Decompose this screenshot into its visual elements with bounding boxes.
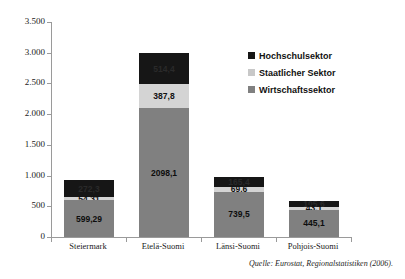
- clipped-header-text: [8, 0, 398, 6]
- legend-item-wirtschaftssektor[interactable]: Wirtschaftssektor: [248, 81, 336, 98]
- bar-steiermark[interactable]: 272,3 54,31 599,29: [64, 180, 114, 237]
- bar-segment-hochschulsektor[interactable]: 514,4: [139, 53, 189, 85]
- y-axis-label-0: 0: [1, 231, 45, 241]
- bar-segment-wirtschaftssektor[interactable]: 445,1: [289, 210, 339, 237]
- bar-segment-wirtschaftssektor[interactable]: 2098,1: [139, 108, 189, 237]
- legend-item-staatlicher-sektor[interactable]: Staatlicher Sektor: [248, 64, 336, 81]
- x-axis-category-steiermark: Steiermark: [45, 241, 131, 251]
- y-axis-label-2000: 2.000: [1, 108, 45, 118]
- bar-segment-wirtschaftssektor[interactable]: 599,29: [64, 200, 114, 237]
- x-axis-category-lansi-suomi: Länsi-Suomi: [195, 241, 281, 251]
- legend-item-hochschulsektor[interactable]: Hochschulsektor: [248, 47, 336, 64]
- source-note: Quelle: Eurostat, Regionalstatistiken (2…: [0, 259, 393, 268]
- bar-value-wirtschaftssektor: 445,1: [289, 219, 339, 228]
- legend-label-staatlicher-sektor: Staatlicher Sektor: [259, 68, 336, 78]
- y-axis-label-2500: 2.500: [1, 77, 45, 87]
- y-axis-label-1500: 1.500: [1, 139, 45, 149]
- bar-value-wirtschaftssektor: 599,29: [64, 214, 114, 223]
- bar-value-wirtschaftssektor: 739,5: [214, 210, 264, 219]
- bar-value-staatlicher-sektor: 387,8: [139, 92, 189, 101]
- bar-pohjois-suomi[interactable]: 105,6 43,1 445,1: [289, 201, 339, 237]
- bar-segment-wirtschaftssektor[interactable]: 739,5: [214, 192, 264, 237]
- y-axis-label-3500: 3.500: [1, 16, 45, 26]
- legend-swatch-icon-hochschulsektor: [248, 52, 255, 59]
- chart-container: 3.500 3.000 2.500 2.000 1.500 1.000 500 …: [0, 0, 405, 279]
- bar-value-hochschulsektor: 514,4: [139, 64, 189, 73]
- y-axis-labels: 3.500 3.000 2.500 2.000 1.500 1.000 500 …: [0, 22, 45, 237]
- chart-legend: Hochschulsektor Staatlicher Sektor Wirts…: [248, 47, 336, 98]
- x-axis-category-etela-suomi: Etelä-Suomi: [120, 241, 206, 251]
- legend-label-wirtschaftssektor: Wirtschaftssektor: [259, 85, 335, 95]
- bar-value-hochschulsektor: 272,3: [64, 184, 114, 193]
- bar-value-wirtschaftssektor: 2098,1: [139, 168, 189, 177]
- y-axis-label-3000: 3.000: [1, 47, 45, 57]
- legend-label-hochschulsektor: Hochschulsektor: [259, 51, 332, 61]
- legend-swatch-icon-wirtschaftssektor: [248, 86, 255, 93]
- y-axis-label-500: 500: [1, 200, 45, 210]
- legend-swatch-icon-staatlicher-sektor: [248, 69, 255, 76]
- bar-etela-suomi[interactable]: 514,4 387,8 2098,1: [139, 53, 189, 237]
- y-axis-label-1000: 1.000: [1, 170, 45, 180]
- bar-lansi-suomi[interactable]: 165,4 69,6 739,5: [214, 177, 264, 237]
- bar-segment-staatlicher-sektor[interactable]: 387,8: [139, 84, 189, 108]
- x-axis-category-pohjois-suomi: Pohjois-Suomi: [270, 241, 356, 251]
